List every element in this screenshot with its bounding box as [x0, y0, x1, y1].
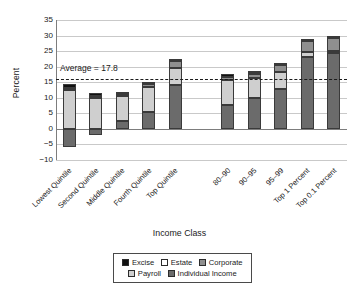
- gridline: [56, 36, 347, 37]
- bar-segment-corporate: [301, 41, 314, 52]
- chart-legend: ExciseEstateCorporate PayrollIndividual …: [113, 253, 252, 283]
- y-axis-tick-label: 10: [27, 94, 53, 102]
- legend-item-excise[interactable]: Excise: [122, 259, 154, 267]
- bar-segment-payroll: [169, 68, 182, 85]
- bar-segment-individual-income: [169, 85, 182, 129]
- bar-segment-payroll: [116, 96, 129, 122]
- bar-segment-payroll: [89, 98, 102, 129]
- legend-label: Corporate: [209, 259, 243, 267]
- bar-segment-corporate: [116, 94, 129, 96]
- bar-segment-excise: [63, 84, 76, 88]
- bar-segment-excise: [327, 36, 340, 38]
- bar-segment-individual-income: [116, 121, 129, 128]
- y-axis-tick-label: 35: [27, 16, 53, 24]
- bar-segment-corporate: [89, 96, 102, 98]
- bar-segment-payroll: [248, 78, 261, 99]
- bar-segment-excise: [89, 93, 102, 96]
- y-axis-tick-label: 25: [27, 47, 53, 55]
- legend-label: Estate: [171, 259, 193, 267]
- bar-segment-excise: [169, 59, 182, 61]
- bar-segment-payroll: [142, 87, 155, 113]
- legend-swatch-icon: [199, 259, 206, 266]
- bar-segment-individual-income: [221, 105, 234, 129]
- legend-label: Individual Income: [178, 270, 237, 278]
- bar-segment-individual-income: [63, 129, 76, 147]
- legend-item-payroll[interactable]: Payroll: [128, 270, 161, 278]
- bar-segment-corporate: [327, 38, 340, 51]
- legend-label: Excise: [132, 259, 154, 267]
- legend-row-1: ExciseEstateCorporate: [118, 257, 247, 268]
- y-axis-tick-label: 5: [27, 109, 53, 117]
- legend-item-individual-income[interactable]: Individual Income: [168, 270, 237, 278]
- average-annotation-label: Average = 17.8: [60, 63, 118, 73]
- bar-segment-payroll: [221, 80, 234, 105]
- legend-swatch-icon: [161, 259, 168, 266]
- x-axis-tick-label: 80–90: [211, 166, 232, 187]
- x-axis-tick-label: 90–95: [237, 166, 258, 187]
- y-axis-tick-label: 20: [27, 63, 53, 71]
- y-axis-line: [56, 20, 57, 160]
- bar-segment-individual-income: [248, 98, 261, 128]
- x-axis-title: Income Class: [0, 228, 359, 238]
- gridline: [56, 144, 347, 145]
- bar-segment-individual-income: [274, 89, 287, 129]
- legend-swatch-icon: [128, 270, 135, 277]
- legend-item-estate[interactable]: Estate: [161, 259, 192, 267]
- bar-segment-corporate: [63, 88, 76, 90]
- x-axis-tick-label: 95–99: [264, 166, 285, 187]
- bar-segment-excise: [116, 92, 129, 94]
- legend-label: Payroll: [138, 270, 161, 278]
- bar-segment-payroll: [301, 52, 314, 57]
- bar-segment-individual-income: [327, 53, 340, 129]
- bar-segment-excise: [142, 82, 155, 84]
- gridline: [56, 160, 347, 161]
- bar-segment-individual-income: [89, 129, 102, 136]
- bar-segment-individual-income: [301, 57, 314, 129]
- average-reference-line: [56, 79, 347, 80]
- bar-segment-excise: [301, 39, 314, 41]
- figure-caption: [4, 294, 356, 303]
- bar-segment-individual-income: [142, 112, 155, 128]
- y-axis-tick-label: 15: [27, 78, 53, 86]
- legend-swatch-icon: [168, 270, 175, 277]
- legend-row-2: PayrollIndividual Income: [118, 268, 247, 279]
- y-axis-tick-label: 30: [27, 32, 53, 40]
- y-axis-tick-label: −5: [27, 140, 53, 148]
- bar-segment-payroll: [274, 72, 287, 89]
- y-axis-tick-label: 0: [27, 125, 53, 133]
- legend-swatch-icon: [122, 259, 129, 266]
- gridline: [56, 20, 347, 21]
- y-axis-tick-label: −10: [27, 156, 53, 164]
- y-axis-title: Percent: [11, 53, 21, 113]
- bar-segment-excise: [221, 74, 234, 76]
- legend-item-corporate[interactable]: Corporate: [199, 259, 242, 267]
- bar-segment-excise: [248, 71, 261, 73]
- figure-effective-tax-rates: −10−505101520253035Lowest QuintileSecond…: [0, 0, 359, 303]
- bar-segment-payroll: [63, 90, 76, 129]
- bar-segment-excise: [274, 63, 287, 65]
- bar-segment-corporate: [142, 84, 155, 87]
- bar-segment-payroll: [327, 51, 340, 53]
